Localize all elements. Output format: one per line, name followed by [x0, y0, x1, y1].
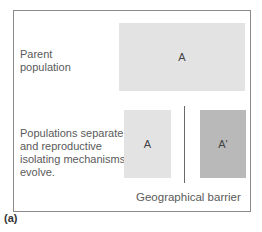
population-letter: A — [144, 138, 151, 150]
label-line: and reproductive — [20, 140, 125, 153]
separation-label: Populations separate and reproductive is… — [20, 127, 125, 179]
barrier-label: Geographical barrier — [136, 191, 241, 204]
label-line: evolve. — [20, 166, 125, 179]
panel-label: (a) — [4, 212, 17, 224]
label-line: isolating mechanisms — [20, 153, 125, 166]
parent-population-label: Parent population — [20, 48, 71, 74]
geographical-barrier-line — [184, 106, 185, 183]
right-population-box: A' — [200, 110, 246, 178]
parent-population-box: A — [119, 23, 245, 91]
left-population-box: A — [124, 110, 171, 178]
label-line: population — [20, 61, 71, 74]
population-letter: A' — [218, 138, 227, 150]
population-letter: A — [178, 51, 185, 63]
label-line: Populations separate — [20, 127, 125, 140]
label-line: Parent — [20, 48, 71, 61]
